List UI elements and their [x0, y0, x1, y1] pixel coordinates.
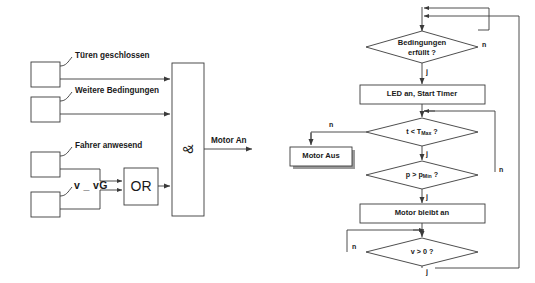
input-box-vvg [31, 192, 60, 217]
process-label-led-timer: LED an, Start Timer [387, 90, 457, 98]
output-label-motor-an: Motor An [211, 137, 247, 145]
decision-bedingungen-line2: erfüllt ? [408, 49, 436, 57]
decision-t-tmax-post: ? [431, 127, 437, 136]
signal-vvg-seg [60, 190, 100, 209]
and-gate-label: & [181, 144, 195, 153]
decision-v-gt-0-label: v > 0 ? [411, 248, 434, 256]
return-bedingungen-top-left [478, 8, 489, 30]
input-label-weitere: Weitere Bedingungen [75, 87, 159, 95]
process-label-motor-aus: Motor Aus [302, 152, 339, 160]
decision-p-pmin-pre: p > p [406, 170, 423, 179]
branch-v-gt-0-no: n [352, 243, 356, 250]
branch-v-gt-0-yes: j [426, 268, 428, 275]
decision-v-gt-0-pre: v > 0 ? [411, 247, 434, 256]
leader-tueren [60, 57, 72, 66]
decision-p-pmin-sub: Min [423, 173, 432, 179]
branch-t-tmax-no: n [329, 121, 333, 128]
branch-p-pmin-yes: j [426, 193, 428, 200]
decision-t-tmax-pre: t < T [406, 127, 421, 136]
process-label-motor-bleibt-an: Motor bleibt an [395, 209, 449, 217]
input-box-tueren [31, 62, 60, 87]
leader-weitere [60, 92, 72, 101]
branch-bedingungen-yes: j [426, 68, 428, 75]
decision-p-pmin-post: ? [432, 170, 438, 179]
input-label-tueren: Türen geschlossen [75, 52, 150, 60]
flow-t-no-seg [311, 132, 366, 141]
leader-vvg [60, 187, 72, 196]
decision-t-tmax-label: t < TMax ? [406, 128, 437, 136]
decision-bedingungen [366, 31, 478, 63]
input-label-fahrer: Fahrer anwesend [75, 142, 142, 150]
and-gate-box [172, 63, 204, 216]
input-label-vvg: v _ vG [74, 180, 108, 191]
or-gate-label: OR [131, 179, 152, 193]
diagram-root: Türen geschlossen Weitere Bedingungen Fa… [0, 0, 535, 283]
decision-bedingungen-line1: Bedingungen [398, 39, 447, 47]
branch-t-tmax-yes: j [426, 150, 428, 157]
input-box-fahrer [31, 152, 60, 177]
leader-fahrer [60, 147, 72, 156]
decision-t-tmax-sub: Max [421, 130, 431, 136]
branch-p-pmin-no: n [499, 166, 503, 173]
decision-p-pmin-label: p > pMin ? [406, 171, 438, 179]
branch-bedingungen-no: n [482, 41, 486, 48]
input-box-weitere [31, 97, 60, 122]
